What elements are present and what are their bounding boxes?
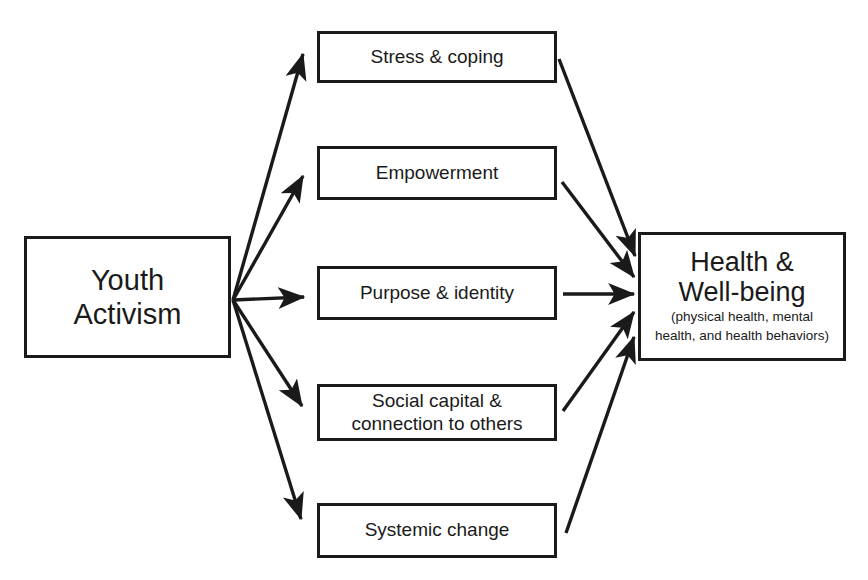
arrow-empowerment-to-health <box>562 182 634 277</box>
node-social-capital-line2: connection to others <box>351 413 522 435</box>
arrow-systemic-to-health <box>566 337 634 533</box>
node-social-capital[interactable]: Social capital & connection to others <box>317 384 557 441</box>
node-youth-activism-line1: Youth <box>91 263 164 297</box>
node-systemic-change-label: Systemic change <box>365 519 510 541</box>
node-youth-activism[interactable]: Youth Activism <box>24 236 231 358</box>
arrow-activism-to-empowerment <box>233 176 303 300</box>
node-stress-coping-label: Stress & coping <box>370 46 503 68</box>
arrow-activism-to-purpose <box>233 297 304 300</box>
node-systemic-change[interactable]: Systemic change <box>317 503 557 558</box>
node-purpose-identity-label: Purpose & identity <box>360 282 514 304</box>
arrow-stress-to-health <box>559 59 635 256</box>
diagram-canvas: Youth Activism Stress & coping Empowerme… <box>0 0 868 580</box>
node-youth-activism-line2: Activism <box>74 297 182 331</box>
node-health-well-being-subtext1: (physical health, mental <box>671 309 813 325</box>
node-empowerment[interactable]: Empowerment <box>317 146 557 200</box>
arrow-activism-to-social <box>233 300 302 406</box>
arrow-activism-to-systemic <box>233 300 301 519</box>
arrow-activism-to-stress <box>233 54 303 300</box>
node-health-well-being-headline2: Well-being <box>678 277 805 307</box>
node-health-well-being-subtext2: health, and health behaviors) <box>655 328 829 344</box>
node-social-capital-line1: Social capital & <box>372 390 502 412</box>
node-stress-coping[interactable]: Stress & coping <box>317 31 557 83</box>
node-empowerment-label: Empowerment <box>376 162 499 184</box>
arrow-social-to-health <box>563 312 634 411</box>
node-purpose-identity[interactable]: Purpose & identity <box>317 266 557 320</box>
node-health-well-being[interactable]: Health & Well-being (physical health, me… <box>638 232 846 361</box>
node-health-well-being-headline1: Health & <box>690 247 794 277</box>
